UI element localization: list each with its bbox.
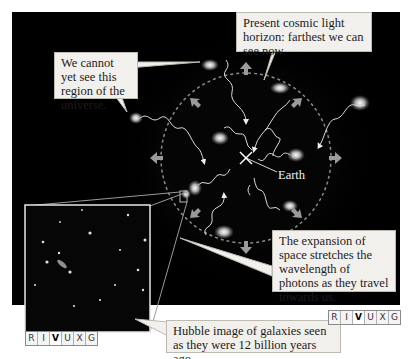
band-g: G [389, 311, 400, 324]
earth-label: Earth [278, 168, 305, 183]
callout-expansion: The expansion of space stretches the wav… [272, 230, 396, 292]
callout-light-horizon: Present cosmic light horizon: farthest w… [236, 12, 372, 52]
band-r: R [329, 311, 341, 324]
band-r: R [26, 332, 38, 345]
band-u: U [62, 332, 74, 345]
band-i: I [341, 311, 353, 324]
band-u: U [365, 311, 377, 324]
band-i: I [38, 332, 50, 345]
band-x: X [377, 311, 389, 324]
band-x: X [74, 332, 86, 345]
callout-unseen-region: We cannot yet see this region of the uni… [54, 52, 138, 99]
band-g: G [86, 332, 97, 345]
hubble-image [25, 205, 150, 332]
band-v: V [353, 311, 365, 324]
rivuxg-right: R I V U X G [328, 310, 401, 325]
callout-hubble: Hubble image of galaxies seen as they we… [166, 320, 341, 353]
rivuxg-left: R I V U X G [25, 331, 98, 346]
band-v: V [50, 332, 62, 345]
